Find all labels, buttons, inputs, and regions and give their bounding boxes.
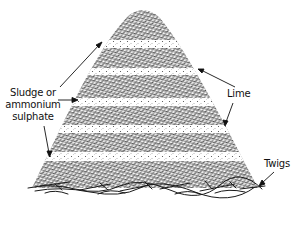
sludge-arrow-bottom: [44, 126, 49, 153]
lime-band-1: [0, 68, 302, 75]
lime-label: Lime: [227, 88, 250, 100]
lime-arrow-top: [201, 70, 235, 87]
sludge-label-line1: Sludge or: [2, 87, 64, 99]
sludge-label: Sludge or ammonium sulphate: [2, 87, 64, 123]
twigs-arrow: [259, 172, 274, 186]
sludge-label-line2: ammonium: [2, 99, 64, 111]
lime-arrow-bottom: [226, 103, 233, 122]
sludge-band-3: [0, 152, 302, 161]
twigs-arrow-line: [262, 172, 274, 183]
arrow-head: [198, 69, 204, 73]
sludge-band-1: [0, 40, 302, 48]
twigs-label: Twigs: [264, 158, 290, 170]
sludge-label-line3: sulphate: [2, 111, 64, 123]
